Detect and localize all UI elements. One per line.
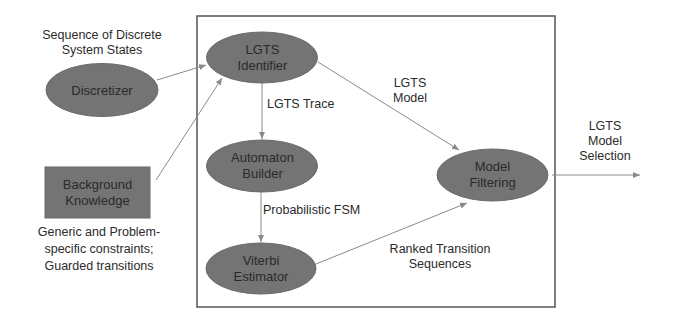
output-label-lgts-model-selection: LGTS Model Selection [565, 119, 645, 164]
background-knowledge-label: Background Knowledge [45, 167, 150, 218]
edge-label-probabilistic-fsm: Probabilistic FSM [263, 203, 360, 218]
lgts-identifier-label: LGTS Identifier [207, 32, 318, 83]
edge-label-lgts-model: LGTS Model [380, 76, 440, 106]
arrow-discretizer-to-identifier [157, 65, 206, 80]
model-filtering-label: Model Filtering [437, 149, 548, 201]
viterbi-estimator-label: Viterbi Estimator [206, 243, 316, 294]
background-knowledge-caption: Generic and Problem- specific constraint… [28, 224, 170, 275]
automaton-builder-label: Automaton Builder [207, 140, 318, 192]
discretizer-caption: Sequence of Discrete System States [32, 28, 172, 58]
discretizer-label: Discretizer [46, 64, 158, 117]
edge-label-lgts-trace: LGTS Trace [267, 97, 334, 112]
edge-label-ranked-transition-sequences: Ranked Transition Sequences [380, 242, 500, 272]
